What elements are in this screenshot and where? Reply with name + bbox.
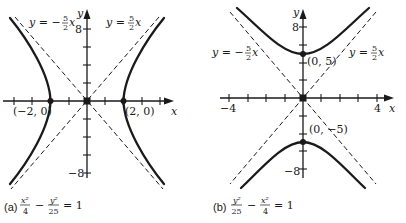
caption-label-b: (b) [213, 201, 226, 213]
caption-b: (b) y² 25 − x² 4 = 1 [213, 196, 294, 216]
caption-a: (a) x² 4 − y² 25 = 1 [4, 196, 83, 216]
svg-text:x: x [252, 46, 259, 59]
x-axis-arrow-b [384, 95, 394, 102]
vertex-left-a [48, 98, 54, 104]
svg-text:2: 2 [129, 23, 134, 32]
asymptote-label-pos-b: y = 5 2 x [348, 44, 385, 62]
point-label-bottom-b: (0, −5) [309, 123, 348, 136]
vertex-right-a [121, 98, 127, 104]
svg-text:y²: y² [232, 196, 241, 205]
svg-text:x²: x² [21, 196, 29, 205]
svg-text:= 1: = 1 [274, 199, 294, 212]
svg-text:4: 4 [263, 207, 268, 216]
x-axis-label-a: x [171, 105, 178, 118]
svg-text:y = −: y = − [211, 46, 244, 59]
point-label-left-a: (−2, 0) [13, 105, 52, 118]
hyperbola-figure: (−2, 0) (2, 0) x y 8 −8 y = − 5 2 x y = … [0, 0, 406, 223]
svg-text:5: 5 [246, 44, 251, 53]
svg-text:5: 5 [372, 44, 377, 53]
svg-text:2: 2 [372, 53, 377, 62]
asymptote-label-pos-a: y = 5 2 x [105, 14, 142, 32]
svg-text:y²: y² [49, 196, 58, 205]
svg-text:−: − [35, 199, 44, 212]
y-axis-label-a: y [76, 7, 84, 20]
point-label-top-b: (0, 5) [307, 55, 337, 68]
y-axis-arrow-a [84, 9, 91, 19]
svg-text:5: 5 [63, 14, 68, 23]
x-tick-label-4-b: 4 [374, 102, 381, 115]
asymptote-label-neg-b: y = − 5 2 x [211, 44, 259, 62]
y-axis-arrow-b [300, 9, 307, 19]
vertex-bottom-b [300, 139, 306, 145]
svg-text:= 1: = 1 [63, 199, 83, 212]
y-tick-label-neg8-b: −8 [284, 165, 300, 178]
vertex-top-b [300, 51, 306, 57]
point-label-right-a: (2, 0) [125, 105, 155, 118]
asymptote-label-neg-a: y = − 5 2 x [28, 14, 76, 32]
svg-text:25: 25 [232, 207, 242, 216]
svg-text:x: x [378, 46, 385, 59]
y-axis-label-b: y [292, 6, 300, 19]
y-tick-label-neg8-a: −8 [68, 167, 84, 180]
panel-a: (−2, 0) (2, 0) x y 8 −8 y = − 5 2 x y = … [3, 7, 178, 216]
svg-text:x²: x² [261, 196, 269, 205]
caption-label-a: (a) [4, 201, 17, 213]
svg-text:−: − [247, 199, 256, 212]
svg-text:2: 2 [246, 53, 251, 62]
svg-text:y = −: y = − [28, 16, 61, 29]
y-tick-label-8-a: 8 [75, 23, 82, 36]
panel-b: (0, 5) (0, −5) x y 8 −8 −4 4 y = − 5 2 x… [211, 6, 396, 216]
origin-marker-b [300, 95, 307, 102]
origin-marker-a [84, 98, 91, 105]
svg-text:x: x [69, 16, 76, 29]
x-tick-label-neg4-b: −4 [220, 102, 236, 115]
svg-text:2: 2 [63, 23, 68, 32]
y-tick-label-8-b: 8 [292, 21, 299, 34]
x-axis-label-b: x [389, 102, 396, 115]
svg-text:y =: y = [105, 16, 125, 29]
svg-text:y =: y = [348, 46, 368, 59]
svg-text:x: x [135, 16, 142, 29]
svg-text:5: 5 [129, 14, 134, 23]
svg-text:25: 25 [49, 207, 59, 216]
svg-text:4: 4 [23, 207, 28, 216]
x-axis-arrow-a [164, 98, 174, 105]
